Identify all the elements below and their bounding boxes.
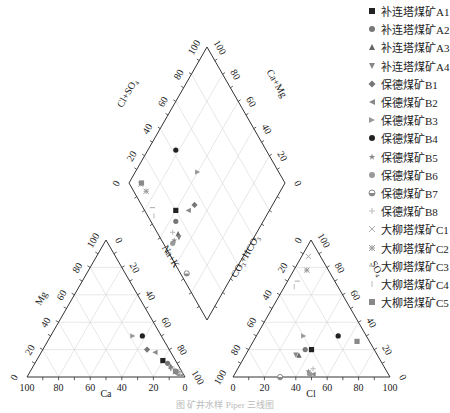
tick-label: 100 <box>84 231 101 249</box>
legend-item: 大柳塔煤矿C4 <box>366 275 449 293</box>
tick-label: 80 <box>175 343 190 357</box>
legend-label: 大柳塔煤矿C4 <box>381 276 449 292</box>
legend-item: 大柳塔煤矿C5 <box>366 293 449 311</box>
legend-item: 补连塔煤矿A2 <box>366 20 449 38</box>
tick-label: 20 <box>275 261 290 275</box>
legend-item: 大柳塔煤矿C2 <box>366 238 449 256</box>
legend-label: 保德煤矿B4 <box>381 130 438 146</box>
legend-item: 保德煤矿B2 <box>366 93 449 111</box>
legend-marker-icon <box>366 5 378 17</box>
tick-label: 20 <box>128 261 143 275</box>
legend-item: 大柳塔煤矿C3 <box>366 257 449 275</box>
tick-label: 0 <box>110 178 122 188</box>
legend-label: 大柳塔煤矿C3 <box>381 258 449 274</box>
legend-item: 保德煤矿B5 <box>366 148 449 166</box>
legend-label: 保德煤矿B8 <box>381 203 438 219</box>
legend-marker-icon <box>366 132 378 144</box>
tick-label: 20 <box>124 149 139 163</box>
legend-label: 补连塔煤矿A1 <box>381 3 449 19</box>
legend-marker-icon <box>366 242 378 254</box>
tick-label: 100 <box>211 368 228 386</box>
legend-item: 补连塔煤矿A4 <box>366 57 449 75</box>
tick-label: 60 <box>348 288 363 302</box>
tick-label: 40 <box>260 288 275 302</box>
legend-marker-icon <box>366 296 378 308</box>
legend-item: 保德煤矿B7 <box>366 184 449 202</box>
legend-label: 保德煤矿B5 <box>381 149 438 165</box>
tick-label: 0 <box>183 382 188 393</box>
tick-label: 20 <box>148 382 158 393</box>
tick-marks <box>32 59 385 380</box>
legend-label: 大柳塔煤矿C1 <box>381 221 449 237</box>
legend-label: 保德煤矿B7 <box>381 185 438 201</box>
legend-label: 补连塔煤矿A2 <box>381 21 449 37</box>
tick-label: 0 <box>292 235 304 245</box>
axis-label-co3hco3: CO3+HCO3 <box>229 233 263 279</box>
legend-marker-icon <box>366 41 378 53</box>
tick-label: 40 <box>140 122 155 136</box>
tick-label: 60 <box>156 95 171 109</box>
tick-label: 60 <box>322 382 332 393</box>
data-point-大柳塔煤矿C2 <box>144 189 310 375</box>
tick-label: 20 <box>259 382 269 393</box>
tick-label: 80 <box>70 261 85 275</box>
tick-label: 80 <box>228 343 243 357</box>
legend-marker-icon <box>366 96 378 108</box>
legend-marker-icon <box>366 23 378 35</box>
axis-label-clso4: Cl+SO4 <box>114 77 140 110</box>
tick-label: 40 <box>38 315 53 329</box>
tick-label: 0 <box>8 372 20 382</box>
data-point-保德煤矿B3 <box>130 169 306 338</box>
legend-item: 保德煤矿B4 <box>366 129 449 147</box>
axis-label-nak: Na+K <box>160 243 182 270</box>
legend-marker-icon <box>366 60 378 72</box>
data-point-大柳塔煤矿C5 <box>139 180 360 374</box>
legend-marker-icon <box>366 78 378 90</box>
axis-labels: Mg Ca Cl Na+K SO4 Cl+SO4 Ca+Mg CO3+HCO3 <box>33 67 386 399</box>
legend-marker-icon <box>366 278 378 290</box>
legend-marker-icon <box>366 205 378 217</box>
tick-label: 60 <box>244 95 259 109</box>
legend-label: 大柳塔煤矿C2 <box>381 240 449 256</box>
legend-label: 保德煤矿B3 <box>381 112 438 128</box>
legend-label: 保德煤矿B2 <box>381 94 438 110</box>
legend-marker-icon <box>366 169 378 181</box>
data-point-保德煤矿B7 <box>178 271 283 380</box>
legend-item: 保德煤矿B3 <box>366 111 449 129</box>
tick-label: 100 <box>185 38 202 56</box>
axis-label-mg: Mg <box>33 289 49 307</box>
tick-labels: 1000100010000080208020802020206040604060… <box>8 38 409 393</box>
legend-label: 补连塔煤矿A4 <box>381 58 449 74</box>
legend-marker-icon <box>366 114 378 126</box>
tick-label: 40 <box>117 382 127 393</box>
data-point-大柳塔煤矿C1 <box>138 182 311 374</box>
legend-label: 补连塔煤矿A3 <box>381 39 449 55</box>
tick-label: 60 <box>54 288 69 302</box>
tick-label: 80 <box>228 67 243 81</box>
tick-label: 80 <box>171 67 186 81</box>
legend-item: 保德煤矿B1 <box>366 75 449 93</box>
tick-label: 80 <box>354 382 364 393</box>
tick-label: 80 <box>54 382 64 393</box>
legend-label: 保德煤矿B6 <box>381 167 438 183</box>
data-point-大柳塔煤矿C4 <box>154 213 294 377</box>
tick-label: 80 <box>333 261 348 275</box>
grid-lines <box>43 74 374 377</box>
tick-label: 40 <box>143 288 158 302</box>
legend: 补连塔煤矿A1补连塔煤矿A2补连塔煤矿A3补连塔煤矿A4保德煤矿B1保德煤矿B2… <box>366 2 449 311</box>
tick-label: 40 <box>260 122 275 136</box>
tick-label: 0 <box>113 235 125 245</box>
legend-item: 保德煤矿B6 <box>366 166 449 184</box>
tick-label: 0 <box>231 382 236 393</box>
legend-marker-icon <box>366 260 378 272</box>
tick-label: 100 <box>20 382 35 393</box>
tick-label: 60 <box>244 315 259 329</box>
tick-label: 100 <box>383 382 398 393</box>
legend-item: 大柳塔煤矿C1 <box>366 220 449 238</box>
legend-label: 保德煤矿B1 <box>381 76 438 92</box>
legend-item: 补连塔煤矿A3 <box>366 38 449 56</box>
data-point-补连塔煤矿A1 <box>160 208 314 363</box>
tick-label: 20 <box>23 343 38 357</box>
figure-caption: 图 矿井水样 Piper 三线图 <box>0 398 450 411</box>
tick-label: 40 <box>364 315 379 329</box>
